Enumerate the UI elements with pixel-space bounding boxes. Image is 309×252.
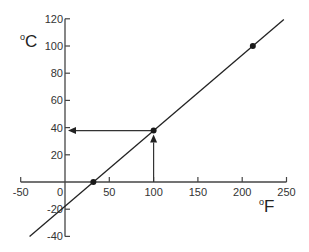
x-tick-label: 200	[233, 186, 251, 198]
data-point	[151, 128, 157, 134]
data-point	[250, 43, 256, 49]
arrow-head-up-icon	[150, 135, 157, 143]
x-tick-label: -50	[13, 186, 29, 198]
x-tick-label: 0	[57, 186, 63, 198]
x-tick-label: 100	[144, 186, 162, 198]
y-tick-label: 20	[51, 149, 63, 161]
x-tick-label: 50	[103, 186, 115, 198]
y-tick-label: 80	[51, 67, 63, 79]
y-tick-label: 120	[45, 13, 63, 25]
x-unit-label: oF	[259, 197, 274, 216]
x-tick-label: 250	[277, 186, 295, 198]
x-tick-label: 150	[189, 186, 207, 198]
conversion-chart: -50050100150200250-40-2020406080100120oC…	[0, 0, 309, 252]
y-tick-label: 100	[45, 40, 63, 52]
y-tick-label: -40	[47, 230, 63, 242]
plot-area: -50050100150200250-40-2020406080100120oC…	[13, 13, 296, 243]
y-unit-label: oC	[20, 32, 37, 51]
y-tick-label: 40	[51, 122, 63, 134]
y-tick-label: 60	[51, 94, 63, 106]
data-point	[90, 179, 96, 185]
